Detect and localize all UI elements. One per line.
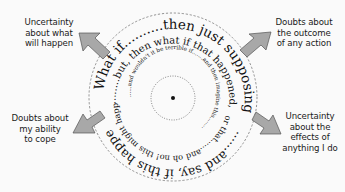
callout-top-right: Doubts about the outcome of any action bbox=[271, 17, 337, 49]
callout-bottom-right: Uncertainty about the effects of anythin… bbox=[278, 111, 342, 153]
callout-top-left: Uncertainty about what will happen bbox=[20, 17, 78, 49]
callout-bottom-left: Doubts about my ability to cope bbox=[10, 113, 70, 145]
arrow-bottom-left-icon bbox=[73, 111, 105, 133]
arrow-top-left-icon bbox=[79, 33, 110, 59]
arrow-bottom-right-icon bbox=[252, 112, 281, 134]
center-dot bbox=[171, 96, 175, 100]
worry-spiral-diagram: What if..........then just supposing ...… bbox=[0, 0, 345, 192]
arrow-top-right-icon bbox=[240, 32, 271, 57]
